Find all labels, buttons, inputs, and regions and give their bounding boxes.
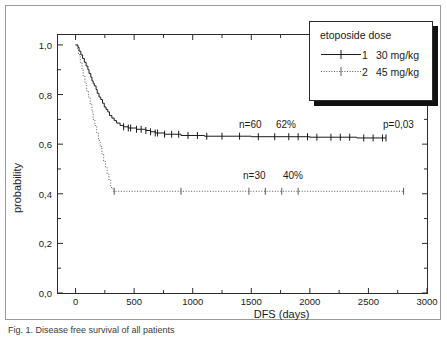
legend-dose-2: 45 mg/kg (376, 66, 419, 78)
figure-panel: 0,00,20,40,60,81,0 probability 050010001… (0, 0, 447, 337)
legend-item-1: 1 30 mg/kg (310, 46, 432, 63)
x-tick-label: 500 (126, 296, 142, 307)
legend-key-2: 2 (362, 66, 376, 78)
y-tick-label: 0,2 (8, 238, 52, 249)
annotation-group1-percent: 62% (276, 119, 296, 130)
x-tick-label: 1500 (241, 296, 262, 307)
annotation-group1-n: n=60 (239, 119, 262, 130)
legend-title: etoposide dose (310, 29, 432, 41)
x-tick-label: 2500 (358, 296, 379, 307)
y-axis-tick-labels: 0,00,20,40,60,81,0 (0, 0, 52, 337)
y-tick-label: 0,8 (8, 89, 52, 100)
annotation-pvalue: p=0,03 (383, 119, 414, 130)
legend-line-sample-solid (320, 49, 362, 60)
x-tick-label: 1000 (182, 296, 203, 307)
y-axis-title: probability (11, 143, 23, 233)
x-tick-label: 2000 (299, 296, 320, 307)
x-axis-title-text: DFS (days) (254, 308, 310, 320)
legend-line-sample-dotted (320, 66, 362, 77)
legend-item-2: 2 45 mg/kg (310, 63, 432, 80)
x-tick-label: 3000 (416, 296, 437, 307)
y-tick-label: 1,0 (8, 39, 52, 50)
legend-dose-1: 30 mg/kg (376, 49, 419, 61)
annotation-group2-percent: 40% (283, 170, 303, 181)
x-tick-label: 0 (73, 296, 78, 307)
figure-caption: Fig. 1. Disease free survival of all pat… (8, 325, 438, 337)
legend-key-1: 1 (362, 49, 376, 61)
legend-box: etoposide dose 1 30 mg/kg 2 45 mg/kg (309, 21, 433, 101)
x-axis-title: DFS (days) (0, 308, 447, 320)
annotation-group2-n: n=30 (243, 170, 266, 181)
